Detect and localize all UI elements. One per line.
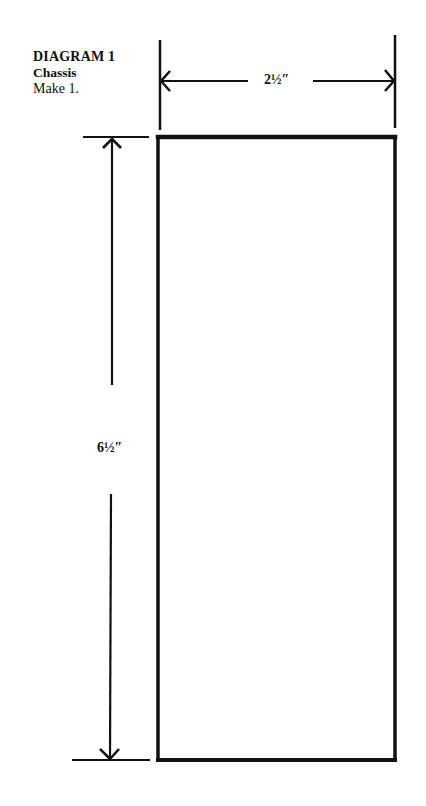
chassis-drawing	[0, 0, 426, 806]
chassis-outline	[158, 137, 395, 760]
width-dimension-label: 2½″	[264, 72, 289, 88]
height-dimension-label: 6½″	[97, 440, 122, 456]
